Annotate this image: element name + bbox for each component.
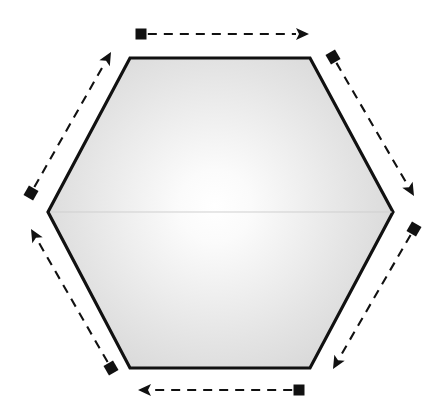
figure-canvas: Regular hexagon with six edge vectors A …	[0, 0, 445, 417]
vector-upper-left-arrowhead-icon	[99, 52, 111, 66]
hexagon-fill	[48, 58, 393, 368]
vector-upper-right-arrowhead-icon	[402, 182, 414, 196]
vector-top	[136, 28, 310, 40]
vector-upper-left-tail-marker-icon	[24, 186, 39, 201]
vector-upper-right-tail-marker-icon	[325, 49, 340, 64]
vector-bottom-arrowhead-icon	[138, 384, 151, 396]
vector-bottom	[138, 384, 305, 396]
hexagon-group	[48, 58, 393, 368]
vector-top-arrowhead-icon	[296, 28, 309, 40]
vector-bottom-tail-marker-icon	[294, 385, 305, 396]
hexagon-vector-diagram: Regular hexagon with six edge vectors A …	[0, 0, 445, 417]
vector-top-tail-marker-icon	[136, 29, 147, 40]
vector-lower-left-arrowhead-icon	[31, 229, 43, 243]
vector-lower-right-tail-marker-icon	[406, 221, 421, 236]
vector-lower-right-arrowhead-icon	[333, 355, 345, 369]
vector-lower-left-tail-marker-icon	[103, 360, 118, 375]
